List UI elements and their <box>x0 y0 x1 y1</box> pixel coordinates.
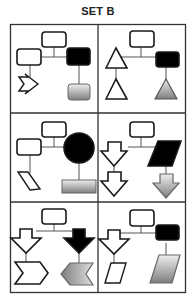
white-down-arrow <box>101 172 127 196</box>
white-down-arrow <box>99 230 129 254</box>
top-rounded-rect <box>42 122 66 137</box>
gradient-down-arrow <box>153 174 179 198</box>
white-down-arrow <box>101 142 127 166</box>
top-rounded-rect <box>42 209 66 224</box>
panel-1 <box>17 32 90 100</box>
white-chevron-right <box>15 262 48 284</box>
panel-2 <box>106 31 179 99</box>
panel-6 <box>99 210 180 283</box>
panel-5 <box>11 209 94 285</box>
left-rounded-rect <box>17 139 41 155</box>
white-triangle <box>106 79 127 99</box>
puzzle-grid <box>0 0 196 308</box>
gradient-parallelogram <box>150 255 180 283</box>
top-rounded-rect <box>130 31 154 47</box>
top-rounded-rect <box>130 210 154 226</box>
white-triangle <box>106 48 127 68</box>
top-rounded-rect <box>42 32 66 47</box>
gradient-rectangle <box>62 180 96 193</box>
top-rounded-rect <box>130 122 154 137</box>
black-circle <box>64 133 94 163</box>
black-down-arrow <box>64 229 94 253</box>
panel-4 <box>101 122 181 198</box>
black-rounded-rect <box>156 225 179 240</box>
panel-3 <box>17 122 96 193</box>
gradient-chevron-left <box>61 263 93 285</box>
gradient-rounded-rect <box>68 84 90 100</box>
white-parallelogram <box>105 263 126 283</box>
notched-arrow-shape <box>19 74 38 94</box>
black-rounded-rect <box>156 52 179 67</box>
gradient-triangle <box>155 79 177 99</box>
white-down-arrow <box>11 229 41 253</box>
black-parallelogram <box>148 141 181 166</box>
white-parallelogram <box>18 172 40 190</box>
black-rounded-rect <box>67 48 90 65</box>
left-rounded-rect <box>17 49 41 65</box>
